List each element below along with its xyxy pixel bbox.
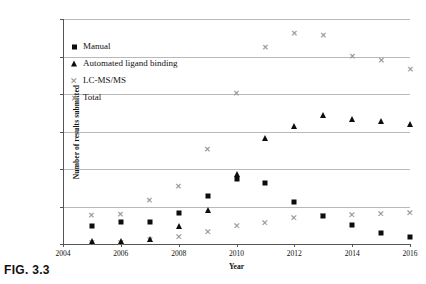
y-tick-mark — [60, 57, 63, 58]
figure-caption: FIG. 3.3 — [4, 263, 50, 277]
data-point — [118, 238, 124, 244]
legend-label: Manual — [83, 41, 111, 51]
data-point: ✕ — [320, 32, 327, 40]
data-point — [205, 207, 211, 213]
data-point — [176, 223, 182, 229]
x-tick-label: 2012 — [274, 250, 314, 258]
legend-item: ✕LC-MS/MS — [68, 72, 178, 89]
x-tick-mark — [352, 244, 353, 247]
y-tick-mark — [60, 169, 63, 170]
data-point: ✕ — [377, 210, 385, 219]
x-tick-mark — [410, 244, 411, 247]
legend-label: LC-MS/MS — [83, 75, 126, 85]
legend-item: ✕Total — [68, 89, 178, 106]
data-point — [292, 199, 297, 204]
data-point — [234, 171, 240, 177]
data-point: ✕ — [204, 227, 212, 236]
gridline — [63, 207, 410, 208]
legend-marker-x-icon: ✕ — [68, 72, 80, 89]
data-point — [89, 224, 94, 229]
gridline — [63, 19, 410, 20]
data-point: ✕ — [261, 219, 269, 228]
data-point: ✕ — [233, 90, 240, 98]
data-point — [205, 194, 210, 199]
data-point — [262, 135, 268, 141]
legend-marker-square-icon — [68, 38, 80, 55]
y-tick-mark — [60, 132, 63, 133]
chart-legend: ManualAutomated ligand binding✕LC-MS/MS✕… — [68, 38, 178, 106]
y-axis-line — [63, 19, 64, 245]
gridline — [63, 132, 410, 133]
data-point: ✕ — [146, 197, 153, 205]
y-tick-mark — [60, 207, 63, 208]
data-point — [320, 112, 326, 118]
data-point — [407, 121, 413, 127]
figure-container: 020040060080010001200 200420062008201020… — [0, 0, 426, 284]
x-tick-mark — [179, 244, 180, 247]
legend-marker-triangle-icon — [68, 55, 80, 72]
data-point — [234, 177, 239, 182]
data-point — [349, 116, 355, 122]
data-point — [291, 123, 297, 129]
legend-label: Automated ligand binding — [83, 58, 178, 68]
data-point — [378, 118, 384, 124]
x-tick-mark — [63, 244, 64, 247]
data-point — [176, 211, 181, 216]
data-point: ✕ — [378, 57, 385, 65]
x-tick-mark — [237, 244, 238, 247]
data-point — [379, 230, 384, 235]
data-point: ✕ — [406, 209, 414, 218]
legend-item: Manual — [68, 38, 178, 55]
data-point: ✕ — [348, 210, 356, 219]
data-point: ✕ — [88, 212, 95, 220]
x-tick-label: 2006 — [101, 250, 141, 258]
data-point: ✕ — [117, 211, 124, 219]
x-tick-label: 2008 — [159, 250, 199, 258]
x-tick-label: 2004 — [43, 250, 83, 258]
x-tick-mark — [294, 244, 295, 247]
data-point — [408, 234, 413, 239]
data-point — [147, 236, 153, 242]
data-point — [263, 181, 268, 186]
data-point: ✕ — [175, 232, 183, 241]
y-tick-mark — [60, 94, 63, 95]
data-point — [147, 220, 152, 225]
legend-marker-star-icon: ✕ — [68, 89, 80, 106]
data-point: ✕ — [290, 213, 298, 222]
legend-item: Automated ligand binding — [68, 55, 178, 72]
data-point — [321, 213, 326, 218]
data-point — [89, 238, 95, 244]
data-point: ✕ — [204, 146, 211, 154]
data-point — [350, 223, 355, 228]
x-tick-label: 2010 — [217, 250, 257, 258]
data-point: ✕ — [291, 30, 298, 38]
data-point: ✕ — [233, 222, 241, 231]
legend-label: Total — [83, 92, 101, 102]
data-point: ✕ — [349, 53, 356, 61]
data-point: ✕ — [175, 183, 182, 191]
x-tick-label: 2016 — [390, 250, 426, 258]
x-tick-label: 2014 — [332, 250, 372, 258]
x-axis-label: Year — [63, 262, 410, 271]
y-tick-mark — [60, 19, 63, 20]
data-point — [118, 219, 123, 224]
data-point: ✕ — [262, 44, 269, 52]
data-point: ✕ — [407, 66, 414, 74]
